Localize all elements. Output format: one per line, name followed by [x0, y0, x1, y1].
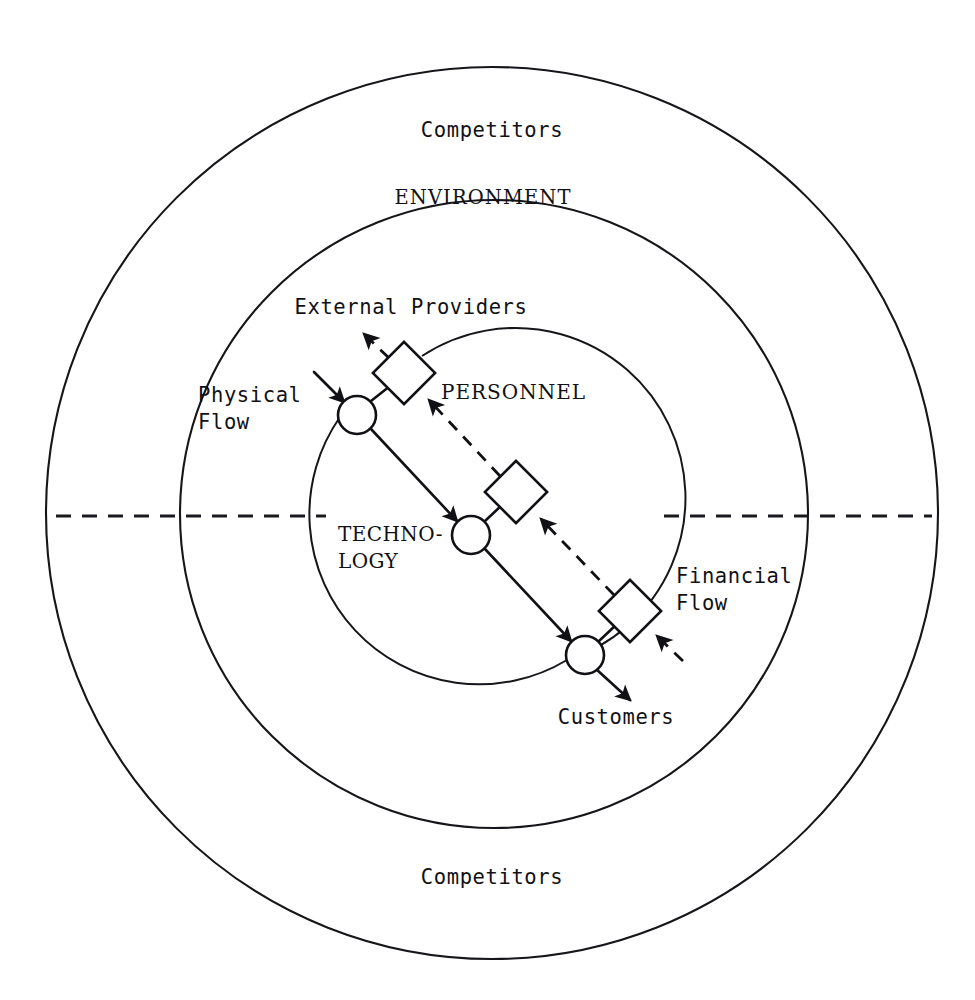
label-financial-flow-line1: Financial: [676, 564, 792, 588]
systems-diagram-canvas: Competitors ENVIRONMENT External Provide…: [0, 0, 975, 1000]
label-physical-flow-line1: Physical: [198, 383, 302, 407]
label-financial-flow-line2: Flow: [676, 591, 728, 615]
financial-flow-inbound-arrow: [657, 636, 683, 661]
label-technology-line1: TECHNO-: [338, 522, 443, 546]
financial-flow-seg-1: [541, 519, 614, 595]
label-physical-flow-line2: Flow: [198, 410, 250, 434]
physical-flow-outbound-arrow: [596, 669, 630, 700]
financial-flow-seg-2: [429, 400, 500, 476]
label-external-providers: External Providers: [295, 295, 528, 319]
label-environment: ENVIRONMENT: [394, 186, 571, 209]
label-competitors-bottom: Competitors: [421, 865, 563, 889]
physical-flow-inbound-arrow: [314, 372, 344, 402]
node-circle-2: [452, 516, 490, 554]
label-competitors-top: Competitors: [421, 118, 563, 142]
node-circle-1: [338, 396, 376, 434]
financial-flow-outbound-arrow: [364, 334, 389, 358]
physical-flow-seg-2: [485, 549, 571, 641]
label-technology-line2: LOGY: [338, 549, 399, 573]
label-personnel: PERSONNEL: [441, 380, 586, 404]
diagram-root: Competitors ENVIRONMENT External Provide…: [0, 0, 975, 1000]
physical-flow-seg-1: [371, 429, 457, 521]
node-circle-3: [566, 636, 604, 674]
label-customers: Customers: [558, 705, 674, 729]
